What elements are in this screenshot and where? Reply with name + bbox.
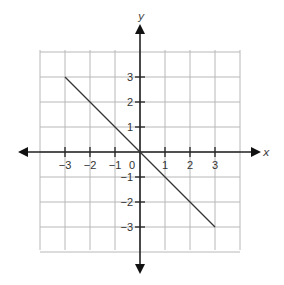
y-tick-label: −2 (120, 196, 133, 208)
x-axis-right-arrow-icon (251, 147, 261, 157)
y-tick-label: −1 (120, 171, 133, 183)
x-tick-label: −3 (59, 159, 72, 171)
y-axis-title: y (137, 10, 145, 23)
y-tick-label: 3 (127, 71, 133, 83)
y-tick-label: 2 (127, 96, 133, 108)
x-axis-left-arrow-icon (18, 147, 28, 157)
x-tick-label: 3 (212, 159, 218, 171)
x-tick-label: 1 (162, 159, 168, 171)
x-tick-label: 2 (187, 159, 193, 171)
coordinate-plane: x y 0 −3−2−1123321−1−2−3 (0, 0, 284, 285)
x-tick-label: −2 (84, 159, 97, 171)
origin-label: 0 (129, 159, 135, 171)
y-axis-up-arrow-icon (135, 24, 145, 34)
x-axis-title: x (262, 146, 270, 159)
x-tick-label: −1 (109, 159, 122, 171)
axes: x y 0 (18, 10, 270, 274)
y-tick-label: 1 (127, 121, 133, 133)
y-axis-down-arrow-icon (135, 264, 145, 274)
y-tick-label: −3 (120, 221, 133, 233)
